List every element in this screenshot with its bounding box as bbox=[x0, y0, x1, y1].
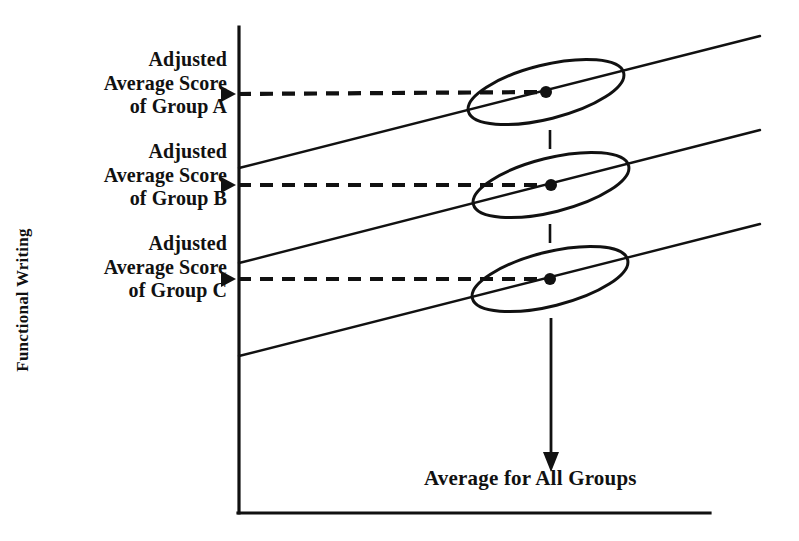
label-group-a-line1: Adjusted bbox=[104, 48, 227, 72]
label-group-a-line2: Average Score bbox=[104, 72, 227, 96]
x-axis-caption: Average for All Groups bbox=[424, 466, 637, 491]
dashed-pointer-group-a bbox=[238, 92, 546, 94]
adjusted-mean-point-group-c bbox=[544, 273, 556, 285]
regression-line-group-a bbox=[239, 36, 760, 168]
label-group-c-line1: Adjusted bbox=[104, 232, 227, 256]
label-group-a-line3: of Group A bbox=[104, 95, 227, 119]
adjusted-mean-point-group-a bbox=[540, 86, 552, 98]
label-adjusted-average-score-group-a: Adjusted Average Score of Group A bbox=[104, 48, 227, 119]
label-group-c-line2: Average Score bbox=[104, 256, 227, 280]
label-group-b-line2: Average Score bbox=[104, 164, 227, 188]
adjusted-mean-point-group-b bbox=[545, 179, 557, 191]
y-axis-title: Functional Writing bbox=[13, 210, 33, 390]
label-group-b-line3: of Group B bbox=[104, 187, 227, 211]
label-group-b-line1: Adjusted bbox=[104, 140, 227, 164]
label-adjusted-average-score-group-c: Adjusted Average Score of Group C bbox=[104, 232, 227, 303]
label-group-c-line3: of Group C bbox=[104, 279, 227, 303]
diagram-canvas: Adjusted Average Score of Group A Adjust… bbox=[0, 0, 799, 541]
label-adjusted-average-score-group-b: Adjusted Average Score of Group B bbox=[104, 140, 227, 211]
